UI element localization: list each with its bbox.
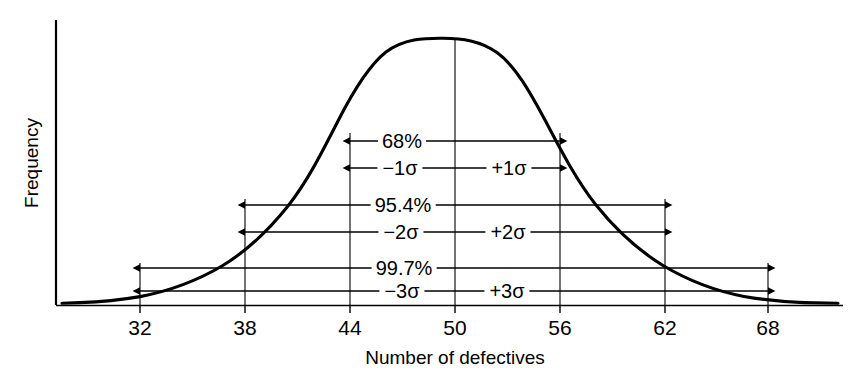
- normal-distribution-figure: 68% 95.4% 99.7% −1σ +1σ −2σ +2σ −3σ +3σ …: [0, 0, 857, 384]
- band-label-99-percent: 99.7%: [372, 258, 437, 278]
- x-tick-label-38: 38: [233, 317, 256, 338]
- x-tick-label-62: 62: [653, 317, 676, 338]
- normal-curve: [62, 38, 838, 303]
- band-label-plus-1-sigma: +1σ: [486, 158, 531, 178]
- axis-lines: [56, 20, 843, 306]
- tick-guide-lines: [140, 39, 768, 305]
- x-tick-label-56: 56: [548, 317, 571, 338]
- band-label-95-percent: 95.4%: [371, 195, 436, 215]
- x-axis-title: Number of defectives: [365, 348, 545, 367]
- band-label-minus-1-sigma: −1σ: [377, 158, 422, 178]
- x-tick-label-32: 32: [128, 317, 151, 338]
- band-label-plus-3-sigma: +3σ: [484, 281, 529, 301]
- band-label-minus-2-sigma: −2σ: [378, 222, 423, 242]
- band-label-minus-3-sigma: −3σ: [379, 281, 424, 301]
- x-tick-label-50: 50: [443, 317, 466, 338]
- band-label-plus-2-sigma: +2σ: [485, 222, 530, 242]
- y-axis-title: Frequency: [22, 118, 41, 208]
- x-tick-label-44: 44: [338, 317, 361, 338]
- x-tick-label-68: 68: [756, 317, 779, 338]
- band-label-68-percent: 68%: [378, 131, 426, 151]
